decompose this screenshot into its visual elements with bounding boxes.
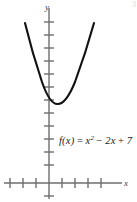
parabola-graph-figure: x y f(x)=x2−2x+7 3 — [0, 0, 137, 202]
x-axis-label: x — [123, 178, 128, 188]
formula-function-name: f(x) — [59, 135, 74, 146]
formula-term1-exponent: 2 — [90, 134, 94, 142]
formula-plus-operator: + — [118, 135, 124, 146]
page-corner-mark: 3 — [132, 1, 136, 9]
function-formula-label: f(x)=x2−2x+7 — [59, 135, 132, 146]
parabola-curve — [25, 23, 94, 104]
formula-equals: = — [77, 135, 83, 146]
formula-minus-operator: − — [97, 135, 103, 146]
formula-constant: 7 — [127, 135, 132, 146]
y-axis-label: y — [44, 2, 49, 12]
formula-term2: 2x — [105, 135, 115, 146]
graph-canvas: x y — [0, 0, 137, 202]
